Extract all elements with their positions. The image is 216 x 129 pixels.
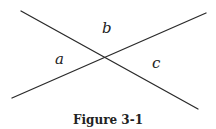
angle-label-a: a: [55, 50, 64, 68]
angle-label-c: c: [152, 54, 161, 72]
intersecting-lines-figure: a b c Figure 3-1: [0, 0, 216, 129]
angle-label-b: b: [102, 19, 112, 37]
figure-caption: Figure 3-1: [73, 113, 143, 127]
